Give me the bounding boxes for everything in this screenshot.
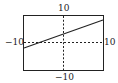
plot-area	[0, 0, 118, 83]
